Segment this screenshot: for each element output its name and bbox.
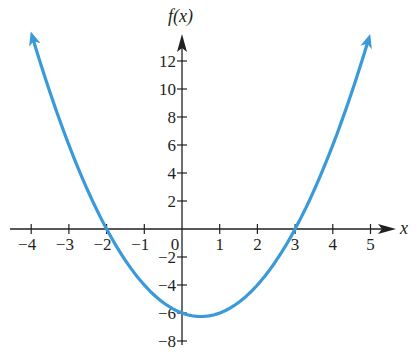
function-graph: −4−3−2−1012345 12108642−2−4−6−8 x f(x)	[0, 0, 417, 353]
x-tick-label: 3	[291, 235, 300, 254]
y-axis-label: f(x)	[168, 6, 193, 27]
y-tick-label: 4	[168, 164, 177, 183]
x-axis-label: x	[399, 218, 408, 238]
curve-path	[33, 39, 368, 316]
y-tick-label: 12	[159, 52, 176, 71]
x-tick-label: −1	[131, 235, 149, 254]
x-tick-label: 4	[329, 235, 338, 254]
x-tick-label: 2	[253, 235, 262, 254]
x-tick-label: −2	[94, 235, 112, 254]
x-tick-label: −3	[56, 235, 74, 254]
parabola-curve	[29, 32, 372, 317]
y-tick-label: −4	[158, 276, 177, 295]
axes	[10, 34, 396, 345]
x-tick-label: 1	[215, 235, 224, 254]
x-tick-label: −4	[18, 235, 37, 254]
y-tick-label: 8	[168, 108, 177, 127]
y-tick-label: 10	[159, 80, 176, 99]
y-tick-label: −8	[158, 332, 176, 351]
y-tick-label: 2	[168, 192, 177, 211]
x-tick-label: 5	[366, 235, 375, 254]
y-tick-label: 6	[168, 136, 177, 155]
y-tick-label: −2	[158, 248, 176, 267]
